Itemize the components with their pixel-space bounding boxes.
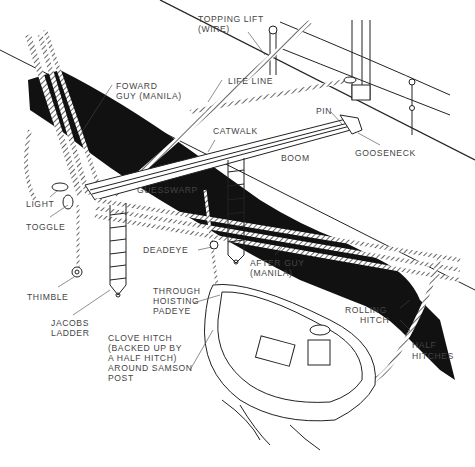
label-ladder: LADDER: [51, 328, 89, 338]
label-hoisting: HOISTING: [153, 296, 199, 306]
label-rolling: ROLLING: [345, 305, 387, 315]
rigging-diagram: TOPPING LIFT (WIRE) LIFE LINE FOWARD GUY…: [0, 0, 475, 467]
label-after-guy: AFTER GUY: [250, 258, 305, 268]
diagram-drawing: [0, 0, 475, 467]
label-hitches: HITCHES: [412, 351, 454, 361]
label-clove-hitch-3: A HALF HITCH): [108, 353, 177, 363]
label-clove-hitch-5: POST: [108, 373, 134, 383]
label-clove-hitch-4: AROUND SAMSON: [108, 363, 193, 373]
label-thimble: THIMBLE: [27, 292, 68, 302]
label-topping-lift-wire: (WIRE): [198, 24, 230, 34]
label-padeye: PADEYE: [153, 306, 191, 316]
label-life-line: LIFE LINE: [228, 76, 273, 86]
label-jacobs: JACOBS: [51, 318, 89, 328]
label-gooseneck: GOOSENECK: [355, 148, 416, 158]
label-pin: PIN: [316, 106, 332, 116]
label-through: THROUGH: [153, 286, 201, 296]
label-toggle: TOGGLE: [26, 222, 65, 232]
label-boom: BOOM: [281, 153, 310, 163]
label-forward-guy: FOWARD: [116, 81, 157, 91]
label-after-guy-manila: (MANILA): [250, 268, 293, 278]
label-light: LIGHT: [26, 199, 54, 209]
label-catwalk: CATWALK: [213, 126, 258, 136]
label-topping-lift: TOPPING LIFT: [198, 14, 264, 24]
label-clove-hitch-2: (BACKED UP BY: [108, 343, 182, 353]
label-deadeye: DEADEYE: [143, 245, 188, 255]
label-guesswarp: GUESSWARP: [137, 185, 198, 195]
label-half: HALF: [412, 340, 436, 350]
label-forward-guy-manila: GUY (MANILA): [116, 91, 182, 101]
label-clove-hitch-1: CLOVE HITCH: [108, 333, 172, 343]
label-hitch: HITCH: [360, 315, 389, 325]
figure-caption: [180, 450, 300, 458]
